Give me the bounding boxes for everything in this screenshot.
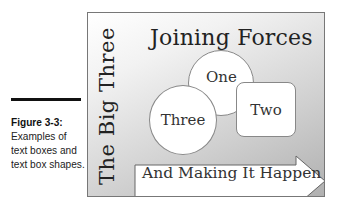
circle-one-label: One	[206, 68, 237, 86]
vertical-text-box: The Big Three	[95, 16, 121, 196]
rounded-box-label: Two	[250, 101, 281, 119]
caption-rule	[11, 98, 81, 101]
rounded-box-two: Two	[236, 82, 296, 137]
diagram-title: Joining Forces	[150, 25, 313, 50]
diagram-panel: The Big Three Joining Forces Three One T…	[87, 12, 325, 197]
arrow-label: And Making It Happen	[142, 163, 321, 183]
figure-caption: Figure 3-3: Examples of text boxes and t…	[11, 115, 85, 171]
circle-three-shape: Three	[149, 85, 217, 155]
figure-description: Examples of text boxes and text box shap…	[11, 130, 85, 170]
figure-label: Figure 3-3:	[11, 116, 63, 128]
circle-three-label: Three	[161, 111, 206, 129]
